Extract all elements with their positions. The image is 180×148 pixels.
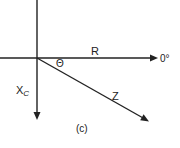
reference-angle-text: 0° — [160, 53, 170, 64]
angle-label: Θ — [56, 58, 64, 69]
arrowhead-down-icon — [34, 112, 41, 120]
impedance-label: Z — [112, 90, 119, 102]
reactance-subscript-text: C — [23, 89, 29, 98]
capacitive-reactance-label: XC — [16, 84, 29, 98]
reference-angle-label: 0° — [160, 53, 170, 64]
figure-caption: (c) — [76, 123, 88, 134]
resistance-label: R — [91, 45, 99, 57]
impedance-vector — [37, 58, 149, 122]
resistance-vector — [0, 55, 158, 62]
phasor-diagram: R Θ 0° XC Z (c) — [0, 0, 180, 148]
arrowhead-right-icon — [150, 55, 158, 62]
